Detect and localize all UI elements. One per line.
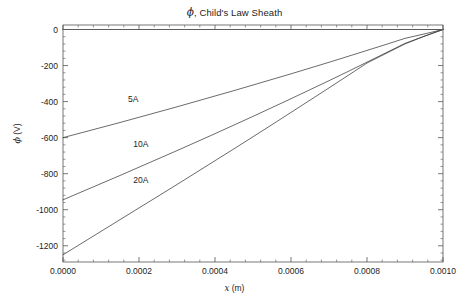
curve-label-5a: 5A: [128, 94, 138, 104]
y-axis-title-phi: ϕ: [11, 137, 22, 143]
chart-figure: ϕ, Child's Law Sheath 0-200-400-600-800-…: [0, 0, 469, 307]
x-tick-label: 0.0006: [278, 266, 304, 276]
x-tick-label: 0.0008: [354, 266, 380, 276]
x-tick-label: 0.0000: [50, 266, 76, 276]
x-axis-title: x (m): [0, 283, 469, 293]
x-tick-label: 0.0004: [202, 266, 228, 276]
x-tick-label: 0.0010: [430, 266, 456, 276]
curve-label-10a: 10A: [133, 139, 148, 149]
curve-label-20a: 20A: [133, 175, 148, 185]
x-tick-label: 0.0002: [126, 266, 152, 276]
x-axis-title-unit: (m): [229, 283, 244, 293]
y-axis-title-unit: (V): [12, 123, 22, 137]
y-axis-title: ϕ (V): [11, 104, 22, 164]
x-axis-tick-labels: 0.00000.00020.00040.00060.00080.0010: [0, 0, 469, 307]
